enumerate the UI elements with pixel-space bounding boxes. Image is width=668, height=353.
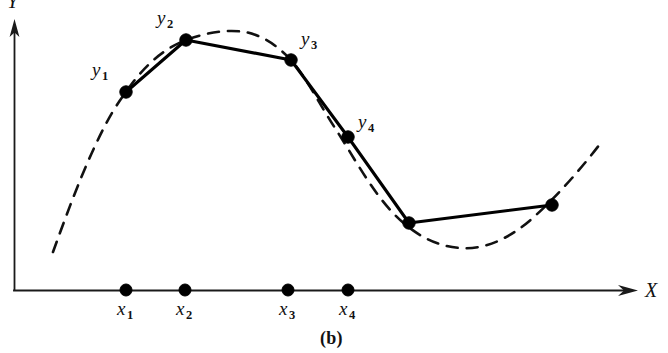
point-label-y1: y1 — [92, 60, 107, 79]
data-point-y6 — [546, 199, 558, 211]
x-axis-dot-x1 — [120, 284, 132, 296]
data-point-y1 — [120, 86, 132, 98]
interpolating-polyline — [126, 40, 552, 223]
point-label-y4-sub: 4 — [368, 121, 374, 135]
point-label-y3-base: y — [301, 28, 309, 49]
axis-label-x2-base: x — [176, 298, 184, 319]
axis-label-x1-base: x — [117, 298, 125, 319]
data-point-y5 — [403, 217, 415, 229]
axis-label-x3-sub: 3 — [289, 308, 295, 322]
axis-label-x2: x2 — [176, 299, 191, 318]
x-axis-dot-x4 — [342, 284, 354, 296]
point-label-y2: y2 — [157, 8, 172, 27]
x-axis-label: X — [645, 280, 657, 300]
axis-label-x4: x4 — [339, 299, 354, 318]
figure-canvas — [0, 0, 668, 353]
data-point-y4 — [342, 131, 354, 143]
point-label-y1-sub: 1 — [102, 69, 108, 83]
axis-label-x2-sub: 2 — [186, 308, 192, 322]
true-function-curve — [53, 31, 600, 252]
data-point-markers — [120, 34, 558, 229]
point-label-y2-sub: 2 — [167, 17, 173, 31]
figure-panel-b: Y X y1 y2 y3 y4 x1 x2 x3 x4 (b) — [0, 0, 668, 353]
axis-label-x3: x3 — [279, 299, 294, 318]
point-label-y4: y4 — [358, 112, 373, 131]
figure-caption: (b) — [320, 329, 343, 347]
x-axis-dot-x2 — [179, 284, 191, 296]
axis-label-x1: x1 — [117, 299, 132, 318]
point-label-y2-base: y — [157, 7, 165, 28]
data-point-y2 — [180, 34, 192, 46]
axis-label-x4-sub: 4 — [349, 308, 355, 322]
point-label-y4-base: y — [358, 111, 366, 132]
point-label-y3: y3 — [301, 29, 316, 48]
axis-label-x1-sub: 1 — [127, 308, 133, 322]
point-label-y3-sub: 3 — [311, 38, 317, 52]
y-axis-label: Y — [7, 0, 18, 11]
data-point-y3 — [285, 54, 297, 66]
x-axis-dot-x3 — [282, 284, 294, 296]
point-label-y1-base: y — [92, 59, 100, 80]
axis-label-x3-base: x — [279, 298, 287, 319]
axis-label-x4-base: x — [339, 298, 347, 319]
